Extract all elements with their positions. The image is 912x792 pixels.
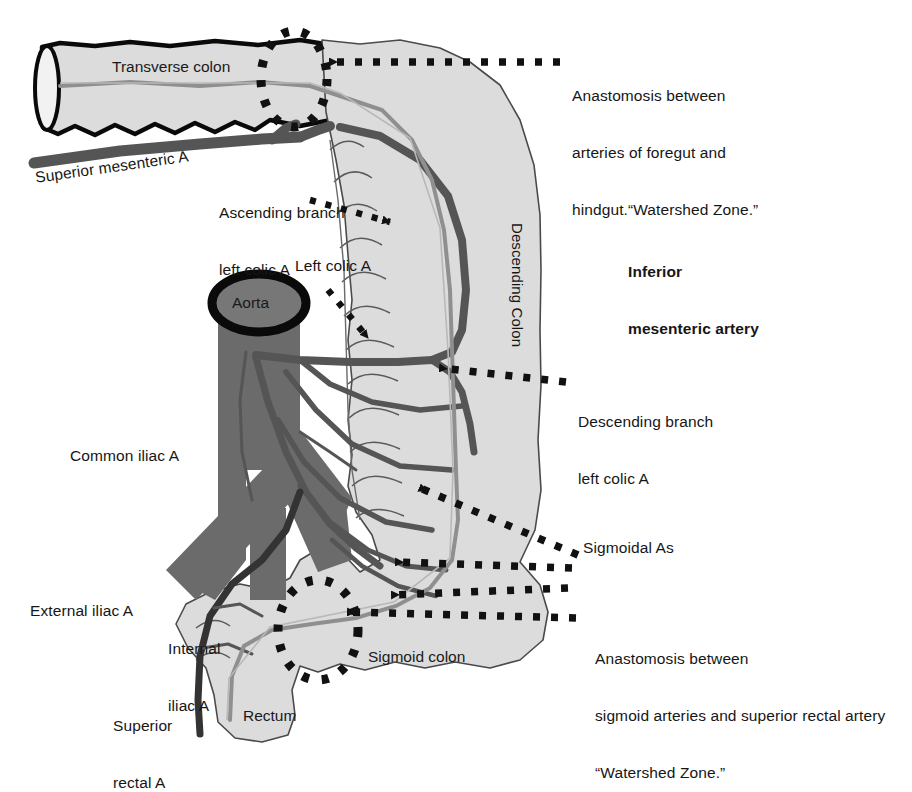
annotation-line-1: Anastomosis between [572,86,758,105]
superior-rectal-line-1: Superior [113,716,172,735]
internal-iliac-line-2: iliac A [168,696,221,715]
label-internal-iliac-a: Internal iliac A [168,601,221,753]
ima-line-2: mesenteric artery [628,319,759,338]
superior-rectal-line-2: rectal A [113,773,172,792]
annotation-inferior-mesenteric-artery: Inferior mesenteric artery [628,224,759,376]
dblc-line-1: Descending branch [578,412,713,431]
transverse-colon-open-end [35,46,59,130]
asr-line-1: Anastomosis between [595,649,885,668]
label-external-iliac-a: External iliac A [30,601,133,620]
sma-branch-to-flexure [300,126,330,137]
asr-line-3: “Watershed Zone.” [595,763,885,782]
dblc-line-2: left colic A [578,469,713,488]
label-left-colic-a: Left colic A [295,256,371,275]
transverse-colon-shape [42,40,331,135]
ascending-branch-line-1: Ascending branch [219,203,345,222]
aorta-iliac-group [166,274,352,600]
label-transverse-colon: Transverse colon [112,58,230,76]
label-common-iliac-a: Common iliac A [70,446,179,465]
label-ascending-branch-left-colic-a: Ascending branch left colic A [219,165,345,317]
annotation-line-2: arteries of foregut and [572,143,758,162]
internal-iliac-line-1: Internal [168,639,221,658]
annotation-line-3: hindgut.“Watershed Zone.” [572,200,758,219]
ima-line-1: Inferior [628,262,759,281]
annotation-sigmoidal-as: Sigmoidal As [583,538,674,557]
label-sigmoid-colon: Sigmoid colon [368,648,465,666]
annotation-descending-branch-left-colic-a: Descending branch left colic A [578,374,713,526]
label-rectum: Rectum [243,707,296,725]
annotation-anastomosis-sigmoid-superior-rectal: Anastomosis between sigmoid arteries and… [595,611,885,792]
label-descending-colon: Descending Colon [508,223,527,347]
label-superior-rectal-a: Superior rectal A [113,678,172,792]
asr-line-2: sigmoid arteries and superior rectal art… [595,706,885,725]
